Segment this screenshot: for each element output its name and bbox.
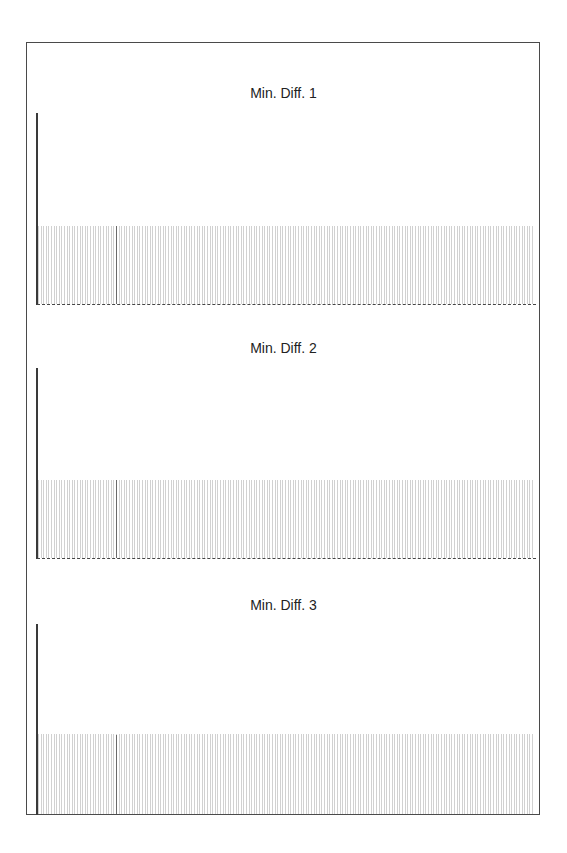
panel-title: Min. Diff. 1 (0, 85, 567, 101)
histogram-bins (38, 734, 535, 814)
histogram-bins (38, 480, 535, 558)
histogram-bins (38, 226, 535, 304)
panel-title: Min. Diff. 2 (0, 340, 567, 356)
highlighted-bin (116, 735, 117, 814)
x-axis (37, 558, 536, 559)
x-axis (37, 304, 536, 305)
highlighted-bin (116, 226, 117, 304)
highlighted-bin (116, 480, 117, 558)
figure-frame (26, 42, 540, 815)
panel-title: Min. Diff. 3 (0, 597, 567, 613)
